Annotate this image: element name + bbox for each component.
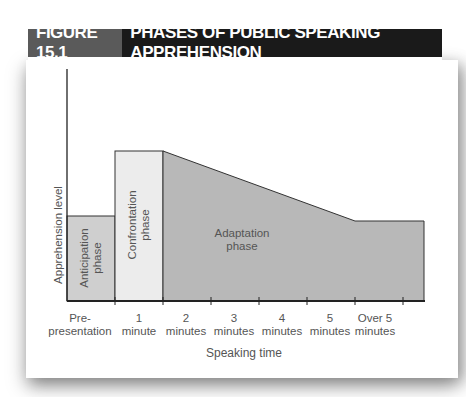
x-axis-label: Speaking time (206, 346, 282, 360)
adaptation-label-line2: phase (202, 240, 282, 253)
confrontation-label: Confrontation phase (126, 190, 152, 259)
anticipation-label-line2: phase (91, 228, 104, 287)
x-tick-label: Over 5minutes (340, 312, 410, 338)
confrontation-label-line2: phase (139, 190, 152, 259)
confrontation-label-line1: Confrontation (126, 190, 139, 259)
adaptation-label: Adaptation phase (202, 227, 282, 253)
adaptation-label-line1: Adaptation (202, 227, 282, 240)
anticipation-label: Anticipation phase (78, 228, 104, 287)
adaptation-area (163, 151, 424, 301)
anticipation-label-line1: Anticipation (78, 228, 91, 287)
y-axis-label: Apprehension level (52, 186, 64, 284)
